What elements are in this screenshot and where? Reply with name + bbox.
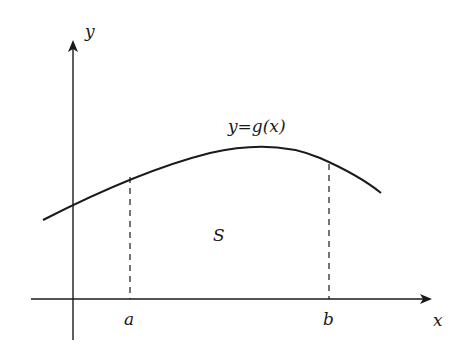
bound-label-b: b: [323, 309, 334, 329]
y-axis-label: y: [84, 21, 95, 41]
area-diagram: y x a b S y=g(x): [0, 0, 467, 356]
x-axis-label: x: [433, 310, 443, 330]
diagram-svg: y x a b S y=g(x): [0, 0, 467, 356]
region-label: S: [213, 225, 225, 245]
bound-label-a: a: [124, 309, 134, 329]
curve-g: [43, 147, 381, 220]
curve-label: y=g(x): [227, 116, 286, 136]
